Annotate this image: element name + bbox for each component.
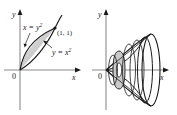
label-origin: 0 — [12, 72, 16, 81]
label-origin: 0 — [98, 72, 102, 81]
y-axis — [18, 9, 23, 110]
label-curve-x-equals-y-squared: x = y2 — [22, 22, 43, 32]
label-curve-y-equals-x-squared: y = x2 — [51, 47, 72, 57]
solid-of-revolution-svg: 0 x y — [88, 0, 177, 115]
panel-plane-region: x = y2 y = x2 (1, 1) 0 x y — [0, 0, 88, 115]
shaded-region — [20, 28, 55, 70]
y-axis — [104, 9, 109, 110]
leader-line-upper-curve — [25, 33, 30, 45]
label-intersection-point: (1, 1) — [57, 29, 73, 37]
panel-solid-of-revolution: 0 x y — [88, 0, 177, 115]
label-axis-x: x — [159, 73, 164, 82]
label-axis-y: y — [11, 10, 16, 19]
plane-region-svg: x = y2 y = x2 (1, 1) 0 x y — [0, 0, 88, 115]
x-axis — [92, 68, 169, 73]
label-axis-y: y — [97, 10, 102, 19]
figure-container: x = y2 y = x2 (1, 1) 0 x y — [0, 0, 177, 115]
label-axis-x: x — [71, 73, 76, 82]
